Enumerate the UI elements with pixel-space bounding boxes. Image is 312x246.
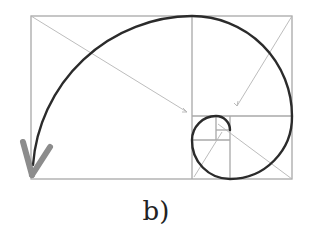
- figure-caption: b): [0, 196, 312, 226]
- diagonals: [31, 16, 292, 179]
- diagonal-line: [237, 16, 292, 106]
- diagonal-line: [194, 132, 222, 177]
- arrow-tick: [182, 108, 187, 112]
- arrow-tick: [234, 101, 238, 106]
- golden-spiral: [33, 16, 292, 179]
- golden-spiral-diagram: [0, 0, 312, 190]
